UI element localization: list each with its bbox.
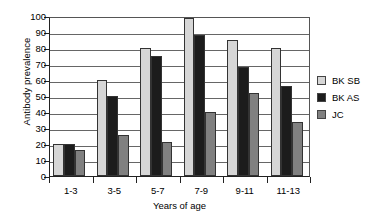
y-axis-tick-label: 0 <box>16 172 46 182</box>
bar <box>292 122 303 176</box>
bar <box>64 144 75 176</box>
bar <box>281 86 292 176</box>
bar-chart-figure: Antibody prevalence 01020304050607080901… <box>0 0 379 219</box>
bar-group <box>137 18 181 176</box>
x-axis-tick <box>310 177 311 183</box>
x-axis-tick <box>223 177 224 183</box>
x-axis-category-label: 11-13 <box>260 185 316 196</box>
legend-item[interactable]: JC <box>317 106 360 123</box>
bar-group <box>94 18 138 176</box>
bar <box>107 96 118 176</box>
bar <box>238 67 249 176</box>
y-axis-tick-label: 60 <box>16 76 46 86</box>
y-axis-tick-label: 70 <box>16 60 46 70</box>
y-axis-tick-label: 80 <box>16 44 46 54</box>
y-axis-tick-label: 30 <box>16 124 46 134</box>
legend-item[interactable]: BK SB <box>317 72 360 89</box>
x-axis-tick <box>136 177 137 183</box>
bar <box>194 35 205 176</box>
legend-swatch-icon <box>317 76 326 85</box>
bar-group <box>224 18 268 176</box>
bar-group <box>181 18 225 176</box>
x-axis-tick <box>180 177 181 183</box>
legend-swatch-icon <box>317 93 326 102</box>
y-axis-tick-label: 40 <box>16 108 46 118</box>
bar <box>75 150 86 176</box>
y-axis-tick-label: 100 <box>16 12 46 22</box>
bar-group <box>50 18 94 176</box>
bar <box>53 144 64 176</box>
x-axis-tick <box>93 177 94 183</box>
x-axis-tick <box>267 177 268 183</box>
x-axis-title: Years of age <box>49 200 310 211</box>
bar <box>140 48 151 176</box>
bar <box>151 56 162 176</box>
bar <box>205 112 216 176</box>
plot-area <box>49 17 310 177</box>
bar <box>184 18 195 176</box>
bar <box>97 80 108 176</box>
legend-label: BK SB <box>332 75 360 86</box>
bar <box>118 135 129 176</box>
legend-swatch-icon <box>317 110 326 119</box>
y-axis-tick-label: 20 <box>16 140 46 150</box>
bar <box>227 40 238 176</box>
y-axis-tick-label: 90 <box>16 28 46 38</box>
legend-label: BK AS <box>332 92 359 103</box>
legend-item[interactable]: BK AS <box>317 89 360 106</box>
y-axis-tick-label: 10 <box>16 156 46 166</box>
bar-group <box>268 18 312 176</box>
chart-legend: BK SBBK ASJC <box>317 72 360 123</box>
bar <box>162 142 173 176</box>
y-axis-tick-label: 50 <box>16 92 46 102</box>
bar <box>271 48 282 176</box>
legend-label: JC <box>332 109 344 120</box>
x-axis-tick <box>49 177 50 183</box>
bar <box>249 93 260 176</box>
